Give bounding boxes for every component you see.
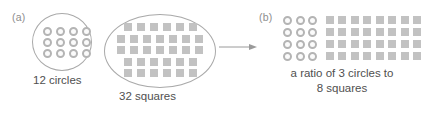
circles-group-glyphs bbox=[41, 26, 93, 59]
square-glyph bbox=[124, 69, 132, 77]
panel-label-b: (b) bbox=[259, 11, 272, 23]
square-glyph bbox=[351, 40, 359, 48]
square-glyph bbox=[326, 52, 334, 60]
circle-glyph bbox=[283, 52, 292, 61]
circle-glyph bbox=[308, 52, 317, 61]
square-glyph bbox=[150, 23, 158, 31]
square-glyph bbox=[376, 40, 384, 48]
square-glyph bbox=[363, 28, 371, 36]
square-glyph bbox=[338, 52, 346, 60]
circle-glyph bbox=[308, 16, 317, 25]
square-glyph bbox=[338, 40, 346, 48]
square-glyph bbox=[124, 23, 132, 31]
square-glyph bbox=[176, 69, 184, 77]
circle-glyph bbox=[69, 38, 78, 47]
square-glyph bbox=[169, 35, 177, 43]
square-glyph bbox=[401, 16, 409, 24]
square-glyph bbox=[413, 16, 421, 24]
square-glyph bbox=[388, 16, 396, 24]
square-glyph bbox=[376, 28, 384, 36]
circle-glyph bbox=[308, 28, 317, 37]
squares-group-label: 32 squares bbox=[119, 90, 176, 102]
square-glyph bbox=[156, 35, 164, 43]
square-glyph bbox=[163, 69, 171, 77]
square-glyph bbox=[326, 16, 334, 24]
square-glyph bbox=[137, 58, 145, 66]
square-glyph bbox=[195, 46, 203, 54]
square-glyph bbox=[326, 40, 334, 48]
square-glyph bbox=[363, 40, 371, 48]
square-glyph bbox=[326, 28, 334, 36]
square-glyph bbox=[388, 28, 396, 36]
square-glyph bbox=[182, 35, 190, 43]
square-glyph bbox=[351, 28, 359, 36]
circle-glyph bbox=[43, 27, 52, 36]
circle-glyph bbox=[69, 49, 78, 58]
square-glyph bbox=[351, 16, 359, 24]
square-row bbox=[124, 58, 197, 66]
circle-glyph bbox=[56, 49, 65, 58]
ratio-caption: a ratio of 3 circles to 8 squares bbox=[274, 66, 410, 96]
square-glyph bbox=[413, 28, 421, 36]
ratio-row bbox=[283, 26, 425, 38]
square-glyph bbox=[401, 28, 409, 36]
square-glyph bbox=[388, 52, 396, 60]
square-glyph bbox=[163, 58, 171, 66]
circle-glyph bbox=[283, 16, 292, 25]
square-glyph bbox=[413, 52, 421, 60]
circles-group-label: 12 circles bbox=[33, 74, 82, 86]
square-glyph bbox=[388, 40, 396, 48]
rightwards-arrow-icon bbox=[219, 42, 257, 52]
ratio-group-glyphs bbox=[283, 14, 425, 62]
circle-glyph bbox=[296, 52, 305, 61]
circle-glyph bbox=[82, 27, 91, 36]
square-glyph bbox=[124, 58, 132, 66]
square-glyph bbox=[150, 69, 158, 77]
square-glyph bbox=[176, 23, 184, 31]
ratio-row bbox=[283, 14, 425, 26]
panel-label-a: (a) bbox=[12, 11, 25, 23]
square-glyph bbox=[401, 52, 409, 60]
square-row bbox=[124, 23, 197, 31]
square-glyph bbox=[182, 46, 190, 54]
square-glyph bbox=[130, 46, 138, 54]
square-glyph bbox=[338, 28, 346, 36]
square-glyph bbox=[150, 58, 158, 66]
square-glyph bbox=[363, 16, 371, 24]
ratio-caption-line-1: a ratio of 3 circles to bbox=[274, 66, 410, 81]
square-row bbox=[124, 69, 197, 77]
circle-glyph bbox=[308, 40, 317, 49]
square-glyph bbox=[137, 23, 145, 31]
circle-glyph bbox=[43, 38, 52, 47]
circle-glyph bbox=[82, 49, 91, 58]
circle-glyph bbox=[56, 38, 65, 47]
square-glyph bbox=[363, 52, 371, 60]
square-glyph bbox=[156, 46, 164, 54]
square-glyph bbox=[117, 35, 125, 43]
circle-glyph bbox=[296, 28, 305, 37]
square-glyph bbox=[176, 58, 184, 66]
square-glyph bbox=[143, 46, 151, 54]
square-glyph bbox=[189, 69, 197, 77]
square-glyph bbox=[163, 23, 171, 31]
circle-glyph bbox=[296, 40, 305, 49]
square-glyph bbox=[195, 35, 203, 43]
square-glyph bbox=[413, 40, 421, 48]
ratio-row bbox=[283, 50, 425, 62]
circle-glyph bbox=[69, 27, 78, 36]
square-glyph bbox=[117, 46, 125, 54]
square-row bbox=[117, 46, 203, 54]
circle-glyph bbox=[296, 16, 305, 25]
square-glyph bbox=[338, 16, 346, 24]
circle-glyph bbox=[82, 38, 91, 47]
square-glyph bbox=[401, 40, 409, 48]
square-glyph bbox=[376, 16, 384, 24]
circle-glyph bbox=[43, 49, 52, 58]
circle-glyph bbox=[56, 27, 65, 36]
circle-glyph bbox=[283, 40, 292, 49]
square-glyph bbox=[137, 69, 145, 77]
ratio-row bbox=[283, 38, 425, 50]
square-glyph bbox=[169, 46, 177, 54]
square-row bbox=[117, 35, 203, 43]
